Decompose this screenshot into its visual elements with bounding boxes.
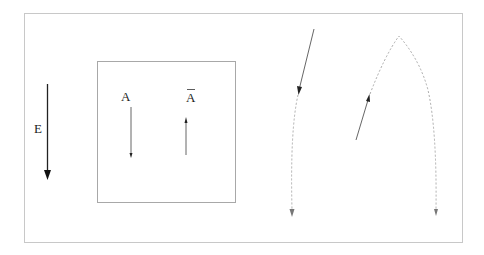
field-arrow-icon bbox=[44, 84, 51, 180]
particle-label: A bbox=[121, 89, 130, 105]
trajectory-particle bbox=[290, 29, 315, 217]
field-label: E bbox=[34, 121, 42, 137]
trajectory-antiparticle bbox=[356, 36, 438, 216]
particle-arrow-icon bbox=[130, 107, 133, 158]
inner-box bbox=[98, 62, 236, 203]
antiparticle-label: A bbox=[186, 90, 195, 106]
diagram-canvas bbox=[0, 0, 484, 255]
antiparticle-arrow-icon bbox=[185, 117, 188, 155]
outer-frame bbox=[25, 14, 463, 243]
